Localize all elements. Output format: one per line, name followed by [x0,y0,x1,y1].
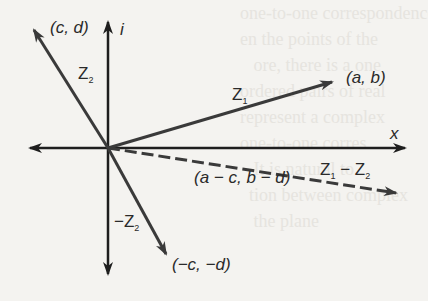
label-z1: Z1 [232,85,247,106]
vector-neg-z2 [108,148,166,254]
label-neg-c-neg-d: (−c, −d) [172,255,231,275]
label-x-axis: x [390,124,399,144]
vector-z2 [34,30,108,148]
label-z1-minus-z2: Z1 − Z2 [320,160,370,181]
label-neg-z2: −Z2 [114,212,139,233]
label-a-b: (a, b) [346,68,386,88]
label-c-d: (c, d) [50,18,89,38]
label-a-c-b-d: (a − c, b − d) [194,168,290,188]
vector-z1 [108,82,332,148]
label-z2: Z2 [78,64,93,85]
label-i-axis: i [120,20,124,40]
